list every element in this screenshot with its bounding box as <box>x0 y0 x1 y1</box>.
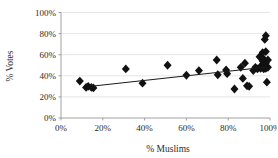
trend-line-segment <box>92 67 265 86</box>
trend-line <box>92 67 265 86</box>
y-axis-tick-labels: 0%20%40%60%80%100% <box>35 8 57 124</box>
data-point-marker <box>239 74 247 83</box>
data-point-marker <box>122 65 130 74</box>
x-tick-label: 20% <box>95 123 112 133</box>
data-points <box>76 31 272 93</box>
data-point-marker <box>164 61 172 70</box>
data-point-marker <box>230 85 238 94</box>
chart-canvas: 0%20%40%60%80%100% 0%20%40%60%80%100% % … <box>0 0 277 158</box>
x-axis-title: % Muslims <box>146 144 190 154</box>
y-tick-label: 100% <box>35 8 57 18</box>
x-tick-label: 100% <box>260 123 278 133</box>
y-tick-label: 40% <box>40 71 57 81</box>
y-tick-label: 60% <box>40 50 57 60</box>
y-axis-title: % Votes <box>5 50 15 81</box>
y-tick-label: 80% <box>40 29 57 39</box>
y-tick-label: 0% <box>44 113 57 123</box>
y-tick-label: 20% <box>40 92 57 102</box>
data-point-marker <box>76 77 84 86</box>
x-tick-label: 80% <box>220 123 237 133</box>
data-point-marker <box>213 56 221 65</box>
scatter-chart: 0%20%40%60%80%100% 0%20%40%60%80%100% % … <box>0 0 277 158</box>
x-tick-label: 40% <box>136 123 153 133</box>
x-tick-label: 60% <box>178 123 195 133</box>
data-point-marker <box>195 66 203 75</box>
x-axis-tick-labels: 0%20%40%60%80%100% <box>55 123 277 133</box>
data-point-marker <box>263 78 271 87</box>
x-tick-label: 0% <box>55 123 68 133</box>
